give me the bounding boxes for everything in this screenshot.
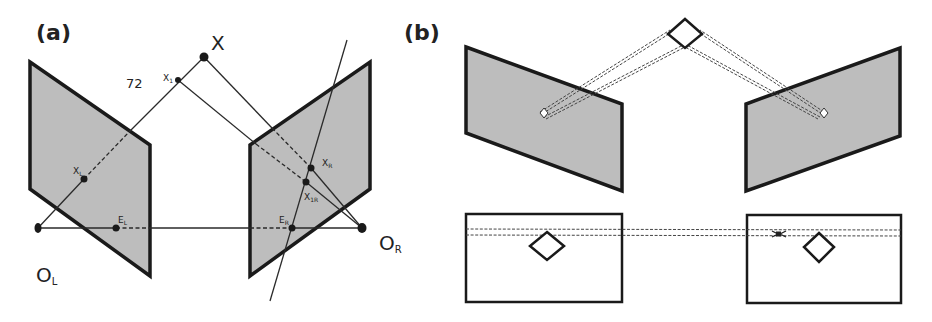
point-xr	[308, 165, 315, 172]
left-image-plane-tilted	[466, 47, 622, 191]
object-diamond	[668, 19, 702, 48]
point-ol	[35, 223, 42, 233]
point-x	[200, 53, 209, 62]
right-rectified-image	[747, 215, 901, 303]
panel-a: (a) X 72	[30, 20, 402, 301]
right-image-plane-tilted	[746, 48, 900, 191]
label-or: OR	[379, 231, 402, 255]
point-x1	[175, 77, 181, 83]
epipolar-geometry-figure: (a) X 72	[0, 0, 932, 322]
label-x1: X1	[163, 73, 173, 84]
ray-to-x	[129, 57, 204, 132]
panel-b-label: (b)	[404, 20, 440, 45]
point-el	[113, 225, 120, 232]
panel-b: (b)	[404, 19, 901, 303]
ray-x1-plane	[178, 80, 256, 144]
panel-a-label: (a)	[36, 20, 71, 45]
point-x1r	[303, 179, 310, 186]
label-x: X	[211, 31, 225, 55]
left-image-plane	[30, 62, 150, 276]
label-72: 72	[126, 76, 143, 91]
label-ol: OL	[36, 263, 58, 287]
point-or	[358, 223, 367, 233]
point-er	[289, 225, 296, 232]
ray-x-plane	[204, 57, 272, 128]
